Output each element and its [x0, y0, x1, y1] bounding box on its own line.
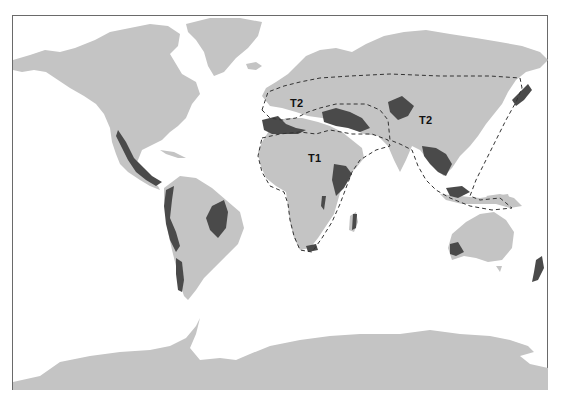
caribbean	[160, 150, 186, 158]
africa	[258, 118, 364, 250]
world-map	[0, 0, 561, 402]
new-zealand	[532, 256, 544, 282]
north-america	[13, 24, 200, 190]
label-t2-west: T2	[290, 97, 303, 109]
label-t1: T1	[308, 152, 321, 164]
land-masses	[13, 18, 548, 390]
antarctica	[13, 318, 548, 390]
iceland	[246, 62, 262, 70]
tasmania	[496, 266, 502, 272]
label-t2-east: T2	[419, 114, 432, 126]
